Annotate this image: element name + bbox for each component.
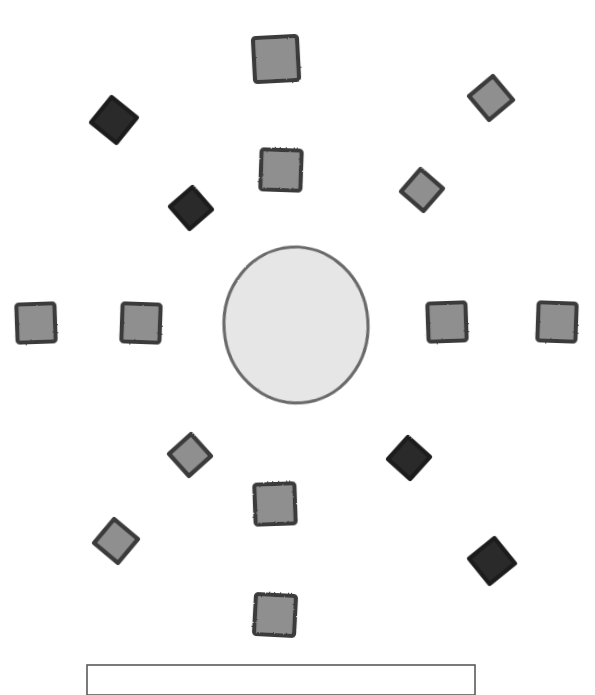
figure-canvas: Radial arrangement of square and diamond… <box>0 0 595 695</box>
marker-sq-bottom-outer <box>254 594 296 636</box>
marker-sq-bottom-inner <box>254 483 295 524</box>
square-marker <box>121 303 160 342</box>
marker-sq-left-outer <box>16 303 55 342</box>
marker-sq-top-outer <box>253 36 299 82</box>
marker-sq-top-inner <box>260 149 301 190</box>
square-marker <box>16 303 55 342</box>
marker-sq-right-inner <box>427 302 466 341</box>
diagram-svg <box>0 0 595 695</box>
square-marker <box>537 302 576 341</box>
marker-sq-left-inner <box>121 303 160 342</box>
square-marker <box>427 302 466 341</box>
square-marker <box>253 36 299 82</box>
square-marker <box>260 149 301 190</box>
square-marker <box>254 483 295 524</box>
marker-sq-right-outer <box>537 302 576 341</box>
square-marker <box>254 594 296 636</box>
